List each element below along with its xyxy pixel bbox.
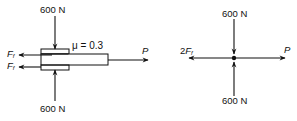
bottom-clamp-plate <box>41 65 69 70</box>
right-bottom-force-label: 600 N <box>222 96 247 106</box>
top-clamp-plate <box>41 49 69 54</box>
bar <box>41 54 108 65</box>
right-left-force-label: 2Ff <box>180 46 193 56</box>
right-free-body-diagram <box>189 19 285 96</box>
left-bottom-force-label: 600 N <box>40 104 65 114</box>
left-pull-force-label: P <box>142 46 148 56</box>
right-top-force-label: 600 N <box>222 9 247 19</box>
free-body-diagrams: 600 N 600 N μ = 0.3 P Ff Ff 600 N 600 N … <box>0 0 297 121</box>
friction-top-label: Ff <box>7 49 14 59</box>
right-pull-force-label: P <box>284 45 290 55</box>
left-free-body-diagram <box>19 16 148 101</box>
friction-coefficient-label: μ = 0.3 <box>72 41 103 51</box>
particle-point <box>232 56 236 60</box>
friction-bottom-label: Ff <box>7 61 14 71</box>
left-top-force-label: 600 N <box>40 5 65 15</box>
